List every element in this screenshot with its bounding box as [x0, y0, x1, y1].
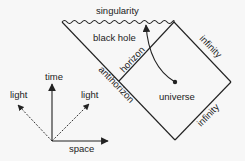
penrose-diagram: singularity black hole horizon antihoriz…	[0, 0, 245, 161]
singularity-label: singularity	[96, 5, 139, 16]
infinity-upper-label: infinity	[198, 33, 225, 60]
space-label: space	[69, 143, 94, 154]
observer-dot	[173, 80, 177, 84]
singularity-line	[62, 21, 174, 24]
light-right-label: light	[81, 89, 99, 100]
light-right-arrow	[52, 104, 89, 141]
worldline-arrow	[146, 25, 175, 82]
horizon-label: horizon	[117, 44, 146, 74]
time-label: time	[45, 71, 63, 82]
universe-label: universe	[159, 91, 195, 102]
light-left-arrow	[18, 105, 52, 141]
light-left-label: light	[10, 89, 28, 100]
black-hole-label: black hole	[93, 32, 136, 43]
antihorizon-label: antihorizon	[97, 64, 137, 105]
